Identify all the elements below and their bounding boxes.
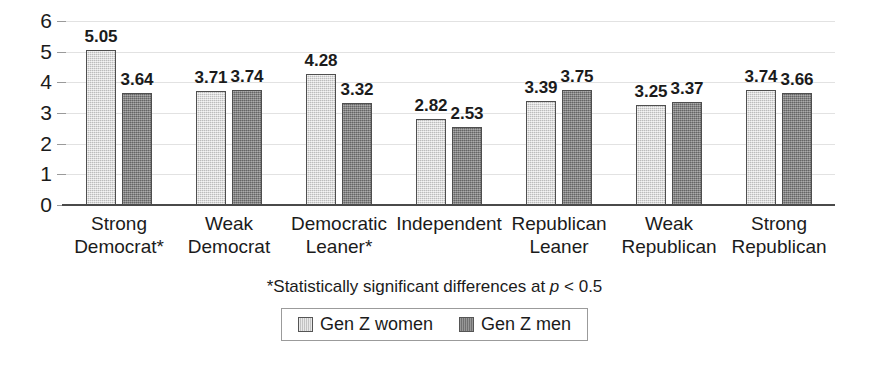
bar-value-label: 5.05	[71, 28, 131, 45]
bar-women[interactable]	[636, 105, 666, 205]
bar-value-label: 4.28	[291, 52, 351, 69]
y-axis-tick-label: 6	[22, 10, 52, 31]
y-axis-tick-mark	[57, 52, 66, 53]
y-axis-tick-mark	[57, 82, 66, 83]
y-axis-tick-mark	[57, 21, 66, 22]
y-axis-tick-label: 4	[22, 71, 52, 92]
y-axis-tick-mark	[57, 113, 66, 114]
bar-women[interactable]	[196, 91, 226, 205]
legend-box: Gen Z womenGen Z men	[281, 308, 588, 341]
bar-value-label: 3.64	[107, 71, 167, 88]
bar-value-label: 3.74	[217, 68, 277, 85]
gridline	[62, 174, 835, 175]
bar-value-label: 3.37	[657, 80, 717, 97]
bar-women[interactable]	[746, 90, 776, 205]
bar-value-label: 3.66	[767, 71, 827, 88]
chart-legend: Gen Z womenGen Z men	[0, 308, 869, 341]
gridline	[62, 144, 835, 145]
y-axis-tick-label: 2	[22, 133, 52, 154]
y-axis-tick-mark	[57, 144, 66, 145]
y-axis-tick-label: 1	[22, 163, 52, 184]
bar-women[interactable]	[526, 101, 556, 205]
legend-label: Gen Z women	[320, 315, 433, 333]
category-label-line-1: Strong	[704, 212, 854, 235]
bar-women[interactable]	[416, 119, 446, 205]
bar-men[interactable]	[782, 93, 812, 205]
footnote-suffix: < 0.5	[559, 277, 602, 296]
plot-area: 5.053.643.713.744.283.322.822.533.393.75…	[62, 21, 835, 205]
dark-gray-swatch	[459, 317, 474, 332]
category-label-line-2: Republican	[704, 235, 854, 258]
x-axis-category-label: StrongRepublican	[704, 212, 854, 258]
bar-value-label: 3.75	[547, 68, 607, 85]
bar-value-label: 3.32	[327, 81, 387, 98]
legend-label: Gen Z men	[481, 315, 571, 333]
bar-men[interactable]	[232, 90, 262, 205]
y-axis-tick-label: 3	[22, 102, 52, 123]
footnote-p-symbol: p	[550, 277, 559, 296]
y-axis-tick-mark	[57, 174, 66, 175]
gridline	[62, 21, 835, 22]
bar-value-label: 2.53	[437, 105, 497, 122]
legend-entry[interactable]: Gen Z men	[459, 315, 571, 333]
chart-footnote: *Statistically significant differences a…	[0, 277, 869, 296]
bar-men[interactable]	[342, 103, 372, 205]
bar-men[interactable]	[562, 90, 592, 205]
category-label-line-2: Leaner*	[264, 235, 414, 258]
bar-men[interactable]	[672, 102, 702, 205]
bar-chart-figure: 5.053.643.713.744.283.322.822.533.393.75…	[0, 0, 869, 368]
gridline	[62, 82, 835, 83]
legend-entry[interactable]: Gen Z women	[298, 315, 433, 333]
gridline	[62, 52, 835, 53]
x-axis-baseline	[62, 204, 835, 206]
footnote-prefix: *Statistically significant differences a…	[267, 277, 550, 296]
y-axis-tick-label: 5	[22, 41, 52, 62]
light-gray-swatch	[298, 317, 313, 332]
bar-men[interactable]	[122, 93, 152, 205]
bar-men[interactable]	[452, 127, 482, 205]
